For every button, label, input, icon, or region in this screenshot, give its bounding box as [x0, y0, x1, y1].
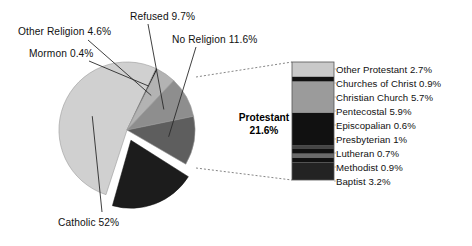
bar-segment-presbyterian [292, 148, 334, 153]
bar-label-christian-church: Christian Church 5.7% [336, 92, 433, 103]
pie-callout-refused-9-7-: Refused 9.7% [130, 11, 195, 22]
bar-segment-christian-church [292, 82, 334, 113]
bar-segment-baptist [292, 163, 334, 180]
bar-segment-lutheran [292, 154, 334, 158]
protestant-callout-percent: 21.6% [228, 125, 300, 138]
protestant-callout-name: Protestant [228, 112, 300, 125]
pie-callout-mormon-0-4-: Mormon 0.4% [29, 48, 94, 59]
bar-label-lutheran: Lutheran 0.7% [336, 148, 399, 159]
religion-pie-chart-figure: Other Religion 4.6%Mormon 0.4%Refused 9.… [0, 0, 472, 246]
bar-segment-other-protestant [292, 62, 334, 77]
bar-segment-churches-of-christ [292, 77, 334, 82]
pie-callout-no-religion-11-6-: No Religion 11.6% [172, 34, 257, 45]
bar-label-other-protestant: Other Protestant 2.7% [336, 64, 432, 75]
bar-label-baptist: Baptist 3.2% [336, 176, 390, 187]
bar-label-episcopalian: Episcopalian 0.6% [336, 120, 416, 131]
bar-segment-methodist [292, 158, 334, 163]
bar-segment-episcopalian [292, 145, 334, 148]
protestant-callout: Protestant 21.6% [228, 112, 300, 138]
bar-label-presbyterian: Presbyterian 1% [336, 134, 407, 145]
pie-callout-other-religion-4-6-: Other Religion 4.6% [18, 26, 111, 37]
bar-label-churches-of-christ: Churches of Christ 0.9% [336, 78, 441, 89]
bar-label-pentecostal: Pentecostal 5.9% [336, 106, 411, 117]
pie-callout-catholic-52-: Catholic 52% [58, 217, 119, 228]
bar-label-methodist: Methodist 0.9% [336, 162, 403, 173]
